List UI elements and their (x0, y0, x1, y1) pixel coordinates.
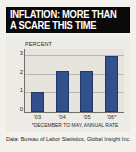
x-axis-tick-label: '04 (59, 114, 66, 120)
chart-title-line-1: INFLATION: MORE THAN (10, 9, 119, 20)
y-axis-label: PERCENT (25, 41, 52, 47)
x-axis-tick-label: '03 (34, 114, 41, 120)
bar (80, 71, 93, 112)
y-axis-tick-label: 3 (20, 50, 23, 56)
bar (105, 56, 118, 112)
x-axis-tick-label: '05 (83, 114, 90, 120)
chart-title-line-2: A SCARE THIS TIME (10, 20, 119, 31)
bar (56, 71, 69, 112)
x-axis-tick-label: '06* (107, 114, 116, 120)
chart-footnote: *DECEMBER TO MAY, ANNUAL RATE (24, 122, 126, 128)
infographic-figure: INFLATION: MORE THAN A SCARE THIS TIME P… (0, 0, 136, 152)
plot-area: 0123'03'04'05'06* (24, 49, 124, 113)
chart-source: Data: Bureau of Labor Statistics, Global… (6, 136, 130, 143)
y-axis-tick-label: 2 (20, 69, 23, 75)
bar (31, 92, 44, 112)
y-axis-tick-label: 1 (20, 87, 23, 93)
y-axis-tick-label: 0 (20, 106, 23, 112)
chart-title-banner: INFLATION: MORE THAN A SCARE THIS TIME (6, 7, 130, 33)
chart-panel: PERCENT CORE CPI EXCLUDES ENERGY AND FOO… (6, 36, 130, 132)
